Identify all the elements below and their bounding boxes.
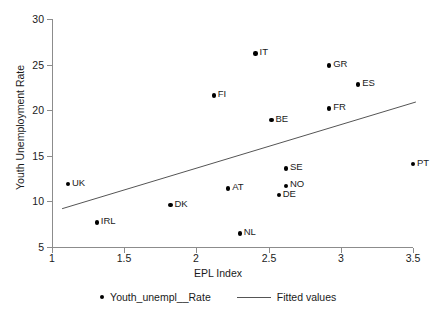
data-point-label: SE <box>290 162 303 172</box>
legend-label-fitted: Fitted values <box>277 291 337 303</box>
data-point-marker-icon <box>284 166 288 170</box>
y-tick-mark <box>47 156 52 157</box>
data-point-marker-icon <box>327 106 331 110</box>
x-tick-label: 3.5 <box>393 253 433 264</box>
data-point-marker-icon <box>226 186 230 190</box>
x-axis-title: EPL Index <box>0 267 436 279</box>
data-point-label: DK <box>174 199 187 209</box>
data-point-label: IRL <box>101 216 116 226</box>
x-tick-label: 2 <box>176 253 216 264</box>
data-point-marker-icon <box>238 231 242 235</box>
y-tick-label: 30 <box>16 14 44 24</box>
y-tick-label: 5 <box>16 242 44 252</box>
legend-label-scatter: Youth_unempl__Rate <box>110 291 211 303</box>
y-axis-title: Youth Unemployment Rate <box>14 65 26 190</box>
y-tick-mark <box>47 19 52 20</box>
data-point-marker-icon <box>356 82 360 86</box>
data-point-marker-icon <box>411 162 415 166</box>
y-tick-mark <box>47 65 52 66</box>
data-point-label: IT <box>260 47 268 57</box>
data-point-label: DE <box>283 189 296 199</box>
chart-legend: Youth_unempl__Rate Fitted values <box>0 288 436 306</box>
data-point-label: PT <box>417 158 429 168</box>
data-point-marker-icon <box>327 63 331 67</box>
data-point-label: BE <box>275 114 288 124</box>
legend-marker-dot-icon <box>100 295 104 299</box>
data-point-label: FI <box>218 89 226 99</box>
x-tick-label: 2.5 <box>249 253 289 264</box>
y-tick-mark <box>47 110 52 111</box>
x-tick-label: 1 <box>32 253 72 264</box>
data-point-label: NO <box>290 179 304 189</box>
data-point-label: NL <box>244 227 256 237</box>
data-point-marker-icon <box>269 118 273 122</box>
x-axis-line <box>52 247 413 248</box>
data-point-marker-icon <box>168 203 172 207</box>
scatter-plot-figure: 51015202530 11.522.533.5 UKIRLDKFIATNLIT… <box>0 0 436 318</box>
y-tick-mark <box>47 201 52 202</box>
data-point-label: ES <box>362 78 375 88</box>
legend-item-fitted[interactable]: Fitted values <box>237 291 337 303</box>
plot-area: 51015202530 11.522.533.5 UKIRLDKFIATNLIT… <box>0 0 436 318</box>
data-point-label: UK <box>72 178 85 188</box>
x-tick-label: 1.5 <box>104 253 144 264</box>
y-axis-line <box>52 19 53 248</box>
data-point-label: FR <box>333 102 346 112</box>
data-point-marker-icon <box>95 220 99 224</box>
legend-marker-line-icon <box>237 297 271 298</box>
y-tick-label: 10 <box>16 196 44 206</box>
data-point-label: AT <box>232 182 243 192</box>
legend-item-scatter[interactable]: Youth_unempl__Rate <box>100 291 211 303</box>
x-tick-label: 3 <box>321 253 361 264</box>
data-point-label: GR <box>333 59 347 69</box>
data-point-marker-icon <box>253 51 257 55</box>
data-point-marker-icon <box>212 93 216 97</box>
data-point-marker-icon <box>66 182 70 186</box>
data-point-marker-icon <box>277 193 281 197</box>
